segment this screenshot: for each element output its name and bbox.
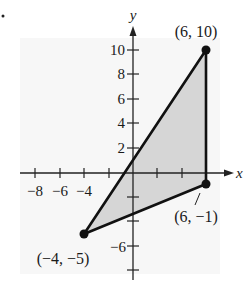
item-bullet	[2, 15, 5, 18]
y-tick-label-8: 8	[118, 66, 126, 82]
x-axis-label: x	[235, 165, 243, 181]
y-tick-label-neg6: −6	[110, 239, 126, 255]
coordinate-plane: y x 10 8 6 4 2 −6 −8 −6 −4 (6, 10) (6, −…	[0, 0, 248, 288]
point-6-10	[202, 46, 211, 55]
y-tick-label-2: 2	[118, 140, 126, 156]
point-label-neg4-neg5: (−4, −5)	[37, 250, 90, 268]
y-axis-arrow-icon	[130, 26, 137, 36]
y-tick-label-4: 4	[118, 115, 126, 131]
x-tick-label-neg4: −4	[76, 183, 92, 199]
point-label-6-10: (6, 10)	[175, 23, 218, 41]
y-axis-label: y	[128, 7, 137, 23]
y-tick-label-6: 6	[118, 91, 126, 107]
y-tick-label-10: 10	[110, 42, 125, 58]
x-axis-arrow-icon	[224, 170, 234, 177]
x-tick-label-neg6: −6	[52, 183, 68, 199]
point-label-6-neg1: (6, −1)	[174, 208, 218, 226]
x-tick-label-neg8: −8	[27, 183, 43, 199]
point-6-neg1	[202, 180, 211, 189]
point-neg4-neg5	[80, 230, 89, 239]
